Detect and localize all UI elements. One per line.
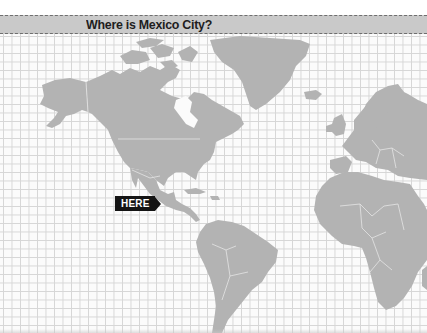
here-marker-label: HERE <box>115 196 155 211</box>
world-map <box>0 0 427 333</box>
landmass-alaska <box>40 78 88 128</box>
landmass-africa <box>314 172 427 310</box>
landmass-north-america <box>86 64 244 186</box>
landmass-iberia <box>330 156 352 174</box>
landmass-iceland <box>304 90 322 100</box>
landmass-south-america <box>196 220 278 333</box>
here-marker: HERE <box>115 196 161 211</box>
landmass-arctic-islands <box>120 38 198 70</box>
question-banner: Where is Mexico City? <box>0 15 427 34</box>
landmass-uk <box>326 114 346 136</box>
question-title: Where is Mexico City? <box>86 17 212 32</box>
bottom-edge <box>0 329 427 333</box>
arrow-right-icon <box>155 197 161 211</box>
landmass-greenland <box>210 36 310 110</box>
landmass-caribbean <box>184 188 220 200</box>
landmass-madagascar <box>422 266 427 290</box>
